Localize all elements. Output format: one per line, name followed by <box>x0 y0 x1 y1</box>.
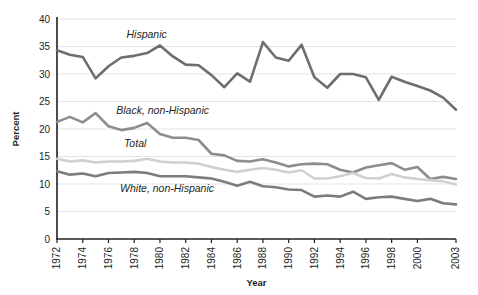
x-tick-group: 1998 <box>386 247 397 270</box>
x-tick-group: 1988 <box>257 247 268 270</box>
series-label-white-non-hispanic: White, non-Hispanic <box>120 182 215 194</box>
x-tick-label: 1990 <box>283 247 294 270</box>
x-tick-label: 1988 <box>257 247 268 270</box>
y-tick-label: 15 <box>39 151 51 162</box>
x-tick-label: 2003 <box>450 247 461 270</box>
x-tick-label: 2000 <box>412 247 423 270</box>
x-tick-label: 1984 <box>206 247 217 270</box>
x-tick-group: 1972 <box>51 247 62 270</box>
x-tick-group: 2000 <box>412 247 423 270</box>
x-tick-group: 1994 <box>335 247 346 270</box>
y-axis-title: Percent <box>10 111 21 147</box>
series-label-black-non-hispanic: Black, non-Hispanic <box>116 104 210 116</box>
x-tick-label: 1992 <box>309 247 320 270</box>
chart-container: 0510152025303540197219741976197819801982… <box>0 0 478 295</box>
x-tick-group: 1974 <box>77 247 88 270</box>
x-tick-group: 2003 <box>450 247 461 270</box>
x-tick-group: 1992 <box>309 247 320 270</box>
x-tick-group: 1982 <box>180 247 191 270</box>
x-tick-group: 1980 <box>154 247 165 270</box>
y-tick-label: 5 <box>44 206 50 217</box>
x-tick-group: 1978 <box>129 247 140 270</box>
y-tick-label: 30 <box>39 69 51 80</box>
y-tick-label: 35 <box>39 41 51 52</box>
x-axis-title: Year <box>246 277 266 288</box>
x-tick-label: 1996 <box>360 247 371 270</box>
x-tick-group: 1990 <box>283 247 294 270</box>
series-label-hispanic: Hispanic <box>127 28 168 40</box>
x-tick-group: 1984 <box>206 247 217 270</box>
y-tick-label: 25 <box>39 96 51 107</box>
x-tick-label: 1972 <box>51 247 62 270</box>
y-axis-title-group: Percent <box>10 111 21 147</box>
series-label-total: Total <box>124 137 147 149</box>
line-chart: 0510152025303540197219741976197819801982… <box>0 0 478 295</box>
y-tick-label: 0 <box>44 234 50 245</box>
y-tick-label: 20 <box>39 124 51 135</box>
x-tick-group: 1996 <box>360 247 371 270</box>
x-tick-label: 1980 <box>154 247 165 270</box>
x-tick-label: 1974 <box>77 247 88 270</box>
y-tick-label: 10 <box>39 179 51 190</box>
series-line-hispanic <box>57 42 456 110</box>
x-tick-label: 1998 <box>386 247 397 270</box>
x-tick-label: 1994 <box>335 247 346 270</box>
x-tick-group: 1986 <box>232 247 243 270</box>
x-tick-label: 1978 <box>129 247 140 270</box>
x-tick-label: 1976 <box>103 247 114 270</box>
x-tick-label: 1986 <box>232 247 243 270</box>
x-tick-group: 1976 <box>103 247 114 270</box>
y-tick-label: 40 <box>39 14 51 25</box>
x-tick-label: 1982 <box>180 247 191 270</box>
